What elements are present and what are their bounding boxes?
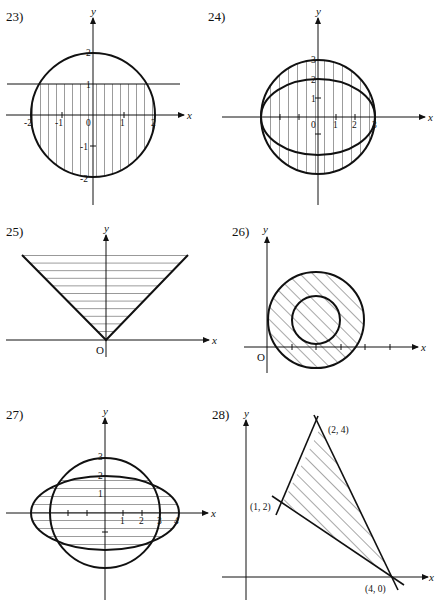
y-tick: 1 (311, 94, 316, 104)
figure-27: 27) x y 1 2 3 4 3 2 1 (6, 405, 216, 600)
y-tick: 1 (98, 489, 103, 499)
y-tick: 2 (86, 48, 91, 58)
figure-23-label: 23) (6, 9, 23, 24)
x-tick: 0 (311, 120, 316, 130)
x-tick: 1 (120, 516, 125, 526)
y-tick: -2 (80, 174, 88, 184)
figure-23: 23) x y -2 -1 0 1 2 2 1 -1 -2 (6, 5, 192, 205)
x-axis-label: x (186, 109, 192, 121)
x-tick: 1 (120, 118, 125, 128)
x-tick: 2 (151, 118, 156, 128)
x-axis-label: x (427, 111, 433, 123)
y-axis-label: y (103, 222, 109, 234)
y-axis-label: y (90, 5, 96, 17)
point-label: (1, 2) (250, 502, 271, 513)
figure-24-label: 24) (208, 9, 225, 24)
x-axis-label: x (420, 341, 426, 353)
x-tick: 4 (174, 516, 179, 526)
figures-canvas: 23) x y -2 -1 0 1 2 2 1 -1 -2 24) x y (0, 0, 440, 603)
figure-25-label: 25) (6, 224, 23, 239)
x-axis-label: x (211, 334, 217, 346)
point-label: (2, 4) (328, 425, 349, 436)
y-tick: 2 (311, 75, 316, 85)
origin-label: O (257, 351, 265, 363)
y-axis-label: y (315, 5, 321, 17)
shaded-region (266, 270, 366, 370)
y-tick: 2 (98, 471, 103, 481)
figure-24: 24) x y 0 1 2 3 3 2 1 (208, 5, 433, 205)
point-label: (4, 0) (365, 584, 386, 595)
x-tick: 1 (333, 120, 338, 130)
origin-label: O (96, 344, 104, 356)
x-tick: -2 (24, 118, 32, 128)
y-tick: 3 (98, 452, 103, 462)
x-axis-label: x (428, 571, 434, 583)
x-tick: 0 (86, 118, 91, 128)
x-axis-label: x (210, 507, 216, 519)
shaded-region (22, 255, 188, 340)
x-tick: 3 (372, 120, 377, 130)
figure-26-label: 26) (232, 224, 249, 239)
figure-25: 25) x y O (6, 222, 217, 357)
y-axis-label: y (262, 223, 268, 235)
y-axis-label: y (102, 405, 108, 417)
shaded-region (283, 428, 392, 577)
x-tick: 3 (157, 516, 162, 526)
y-tick: 1 (86, 80, 91, 90)
x-tick: 2 (139, 516, 144, 526)
figure-28-label: 28) (212, 407, 229, 422)
figure-28: 28) x y (2, 4) (1, 2) (4, 0) (212, 407, 434, 600)
y-tick: -1 (80, 142, 88, 152)
x-tick: -1 (55, 118, 63, 128)
y-axis-label: y (243, 407, 249, 419)
figure-27-label: 27) (6, 407, 23, 422)
x-tick: 2 (352, 120, 357, 130)
y-tick: 3 (311, 55, 316, 65)
figure-26: 26) x y O (232, 223, 426, 373)
